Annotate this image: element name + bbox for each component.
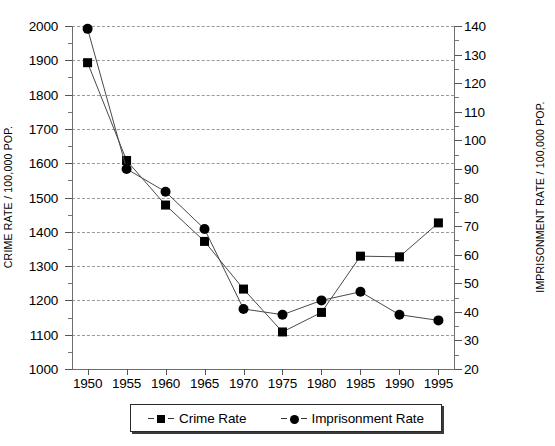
left-tick-major bbox=[65, 26, 72, 27]
right-tick-minor bbox=[455, 298, 459, 299]
right-tick-minor bbox=[455, 240, 459, 241]
x-tick-label: 1990 bbox=[385, 376, 414, 391]
left-tick-label: 1700 bbox=[29, 121, 58, 136]
right-tick-major bbox=[455, 83, 462, 84]
gridline bbox=[72, 129, 454, 130]
x-tick bbox=[360, 369, 361, 375]
gridline bbox=[72, 232, 454, 233]
x-tick bbox=[127, 369, 128, 375]
left-tick-minor bbox=[68, 77, 72, 78]
right-tick-label: 90 bbox=[464, 161, 479, 176]
chart-legend: Crime Rate Imprisonment Rate bbox=[130, 404, 442, 432]
right-tick-major bbox=[455, 312, 462, 313]
left-tick-major bbox=[65, 95, 72, 96]
right-tick-major bbox=[455, 140, 462, 141]
right-tick-minor bbox=[455, 69, 459, 70]
left-tick-minor bbox=[68, 43, 72, 44]
x-axis-line bbox=[72, 369, 455, 370]
left-tick-minor bbox=[68, 249, 72, 250]
x-tick bbox=[282, 369, 283, 375]
x-tick-label: 1950 bbox=[73, 376, 102, 391]
left-axis-line bbox=[72, 26, 73, 369]
left-tick-major bbox=[65, 198, 72, 199]
left-tick-label: 1400 bbox=[29, 224, 58, 239]
left-tick-minor bbox=[68, 318, 72, 319]
right-tick-label: 20 bbox=[464, 362, 479, 377]
legend-entry-imprisonment-rate: Imprisonment Rate bbox=[281, 411, 424, 426]
right-tick-major bbox=[455, 369, 462, 370]
series-line-imprisonment-rate bbox=[88, 29, 439, 321]
x-tick-label: 1965 bbox=[190, 376, 219, 391]
x-tick bbox=[166, 369, 167, 375]
data-point-square bbox=[239, 285, 248, 294]
right-tick-major bbox=[455, 55, 462, 56]
left-tick-minor bbox=[68, 146, 72, 147]
left-tick-label: 2000 bbox=[29, 19, 58, 34]
data-point-circle bbox=[239, 304, 249, 314]
left-tick-label: 1300 bbox=[29, 259, 58, 274]
legend-label-imprisonment-rate: Imprisonment Rate bbox=[312, 411, 424, 426]
x-tick-label: 1970 bbox=[229, 376, 258, 391]
left-tick-major bbox=[65, 232, 72, 233]
data-point-square bbox=[200, 237, 209, 246]
left-axis-title: CRIME RATE / 100,000 POP. bbox=[2, 126, 14, 268]
right-tick-minor bbox=[455, 40, 459, 41]
data-point-circle bbox=[355, 287, 365, 297]
x-tick-label: 1985 bbox=[346, 376, 375, 391]
legend-label-crime-rate: Crime Rate bbox=[179, 411, 246, 426]
right-tick-label: 80 bbox=[464, 190, 479, 205]
chart-figure: 1000110012001300140015001600170018001900… bbox=[0, 0, 555, 446]
left-tick-label: 1000 bbox=[29, 362, 58, 377]
gridline bbox=[72, 335, 454, 336]
left-tick-major bbox=[65, 369, 72, 370]
left-tick-major bbox=[65, 60, 72, 61]
x-tick-label: 1975 bbox=[268, 376, 297, 391]
right-tick-major bbox=[455, 283, 462, 284]
data-point-square bbox=[317, 308, 326, 317]
right-tick-minor bbox=[455, 126, 459, 127]
right-tick-label: 100 bbox=[464, 133, 486, 148]
gridline bbox=[72, 95, 454, 96]
right-tick-major bbox=[455, 340, 462, 341]
gridline bbox=[72, 60, 454, 61]
data-point-circle bbox=[433, 315, 443, 325]
x-tick-label: 1960 bbox=[151, 376, 180, 391]
data-point-circle bbox=[161, 187, 171, 197]
right-tick-minor bbox=[455, 355, 459, 356]
right-tick-label: 140 bbox=[464, 19, 486, 34]
left-tick-minor bbox=[68, 283, 72, 284]
x-tick-label: 1955 bbox=[112, 376, 141, 391]
left-tick-label: 1600 bbox=[29, 156, 58, 171]
data-point-square bbox=[434, 218, 443, 227]
left-tick-label: 1100 bbox=[30, 327, 58, 342]
x-tick-label: 1995 bbox=[424, 376, 453, 391]
left-tick-major bbox=[65, 129, 72, 130]
x-tick bbox=[88, 369, 89, 375]
left-tick-minor bbox=[68, 215, 72, 216]
right-tick-label: 50 bbox=[464, 276, 479, 291]
right-tick-label: 110 bbox=[464, 104, 485, 119]
gridline bbox=[72, 163, 454, 164]
right-tick-major bbox=[455, 169, 462, 170]
left-tick-minor bbox=[68, 180, 72, 181]
x-tick bbox=[321, 369, 322, 375]
right-tick-major bbox=[455, 255, 462, 256]
right-tick-minor bbox=[455, 269, 459, 270]
right-tick-minor bbox=[455, 326, 459, 327]
x-tick bbox=[399, 369, 400, 375]
gridline bbox=[72, 26, 454, 27]
data-point-square bbox=[161, 201, 170, 210]
x-tick bbox=[244, 369, 245, 375]
circle-marker-icon bbox=[281, 412, 307, 424]
right-tick-major bbox=[455, 226, 462, 227]
left-tick-major bbox=[65, 300, 72, 301]
right-tick-label: 40 bbox=[464, 304, 479, 319]
data-point-circle bbox=[277, 310, 287, 320]
left-tick-major bbox=[65, 335, 72, 336]
right-tick-major bbox=[455, 112, 462, 113]
left-tick-major bbox=[65, 163, 72, 164]
right-tick-minor bbox=[455, 97, 459, 98]
left-tick-label: 1200 bbox=[29, 293, 58, 308]
right-tick-major bbox=[455, 26, 462, 27]
left-tick-major bbox=[65, 266, 72, 267]
